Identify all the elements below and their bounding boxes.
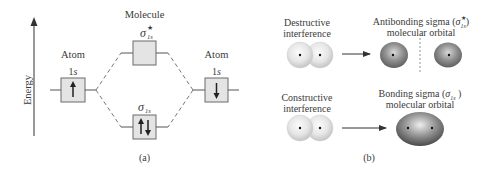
destructive-label-line1: Destructive — [284, 17, 331, 28]
right-atom: Atom 1s — [193, 49, 239, 102]
bonding-result-line2: molecular orbital — [386, 99, 455, 110]
nucleus-dot — [431, 127, 433, 129]
bonding-subscript: 1s — [145, 107, 151, 114]
sigma-orbital-box — [133, 115, 156, 139]
panel-a: Energy Molecule Atom 1s Atom 1s — [22, 9, 239, 164]
destructive-label-line2: interference — [283, 28, 331, 39]
left-atom: Atom 1s — [50, 49, 96, 102]
nucleus-dot — [407, 127, 409, 129]
left-orbital-label: 1s — [69, 66, 78, 77]
right-atom-label: Atom — [205, 49, 229, 60]
nucleus-dot — [319, 54, 321, 56]
antibonding-lobes — [380, 38, 462, 72]
panel-b: Destructive interference Antibonding sig… — [281, 15, 469, 164]
antibonding-result-line2: molecular orbital — [387, 27, 456, 38]
antibonding-orbital: σ ★ 1s — [121, 24, 168, 65]
mo-diagram: Energy Molecule Atom 1s Atom 1s — [0, 0, 482, 177]
left-atom-label: Atom — [61, 49, 85, 60]
molecule-label: Molecule — [125, 9, 165, 20]
caption-a: (a) — [139, 152, 150, 164]
constructive-label-line2: interference — [283, 103, 331, 114]
nucleus-dot — [319, 127, 321, 129]
antibonding-subscript: 1s — [147, 33, 153, 40]
bonding-orbital: σ 1s — [121, 100, 168, 139]
sigma-star-orbital-box — [133, 41, 156, 65]
overlapping-1s-spheres — [287, 42, 333, 68]
constructive-label-line1: Constructive — [281, 92, 333, 103]
right-orbital-label: 1s — [212, 66, 221, 77]
energy-axis-label: Energy — [22, 74, 33, 105]
antibonding-symbol: σ — [140, 26, 147, 40]
bonding-orbital-shape — [396, 112, 444, 146]
nucleus-dot — [299, 127, 301, 129]
antibonding-superscript: ★ — [147, 24, 153, 32]
constructive-interference: Constructive interference Bonding sigma … — [281, 88, 461, 146]
energy-arrow-icon — [31, 17, 38, 26]
bonding-symbol: σ — [138, 100, 145, 114]
destructive-interference: Destructive interference Antibonding sig… — [283, 15, 469, 72]
nucleus-dot — [392, 54, 394, 56]
nucleus-dot — [299, 54, 301, 56]
energy-axis: Energy — [22, 17, 38, 136]
caption-b: (b) — [363, 152, 375, 164]
nucleus-dot — [448, 54, 450, 56]
overlapping-1s-spheres — [287, 115, 333, 141]
